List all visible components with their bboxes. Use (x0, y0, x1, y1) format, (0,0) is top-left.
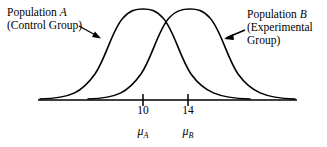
annotation-population-a-line1: Population A (7, 6, 82, 19)
annotation-population-b-line3: Group) (247, 34, 313, 47)
annotation-population-b-symbol: B (300, 8, 307, 20)
arrow-head-population-a (92, 32, 101, 39)
mu-label-a: μA (128, 124, 158, 140)
mu-subscript-b: B (189, 131, 194, 140)
tick-label-14: 14 (173, 104, 203, 116)
annotation-population-b-line2: (Experimental (247, 21, 313, 34)
tick-label-10: 10 (128, 104, 158, 116)
normal-distributions-figure: Population A (Control Group) Population … (0, 0, 327, 147)
mu-subscript-a: A (144, 131, 149, 140)
annotation-population-a-prefix: Population (7, 6, 60, 18)
annotation-population-a-symbol: A (60, 6, 67, 18)
annotation-population-b-line1: Population B (247, 8, 313, 21)
arrow-head-population-b (224, 34, 234, 40)
annotation-population-b-prefix: Population (247, 8, 300, 20)
mu-label-b: μB (173, 124, 203, 140)
annotation-population-a: Population A (Control Group) (7, 6, 82, 32)
annotation-population-a-line2: (Control Group) (7, 19, 82, 32)
annotation-population-b: Population B (Experimental Group) (247, 8, 313, 48)
